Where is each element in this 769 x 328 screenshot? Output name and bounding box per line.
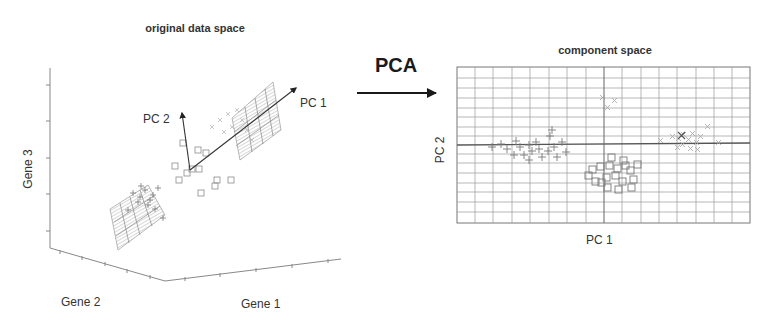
pc2-axis-label: PC 2	[433, 130, 447, 170]
pc1-vector-label: PC 1	[300, 96, 327, 110]
square-markers-3d	[172, 140, 234, 196]
3d-axes	[46, 68, 341, 281]
pca-label: PCA	[375, 54, 417, 77]
square-markers-2d	[585, 154, 641, 193]
gene2-axis-label: Gene 2	[61, 295, 100, 309]
pc1-axis-label: PC 1	[586, 233, 613, 247]
right-plane	[232, 82, 281, 160]
pc2-vector-label: PC 2	[143, 112, 170, 126]
left-plane	[110, 185, 165, 250]
right-panel-title: component space	[530, 44, 680, 56]
pc2-arrow	[182, 113, 190, 170]
gene1-axis-label: Gene 1	[241, 297, 280, 311]
gene3-axis-label: Gene 3	[21, 144, 35, 194]
